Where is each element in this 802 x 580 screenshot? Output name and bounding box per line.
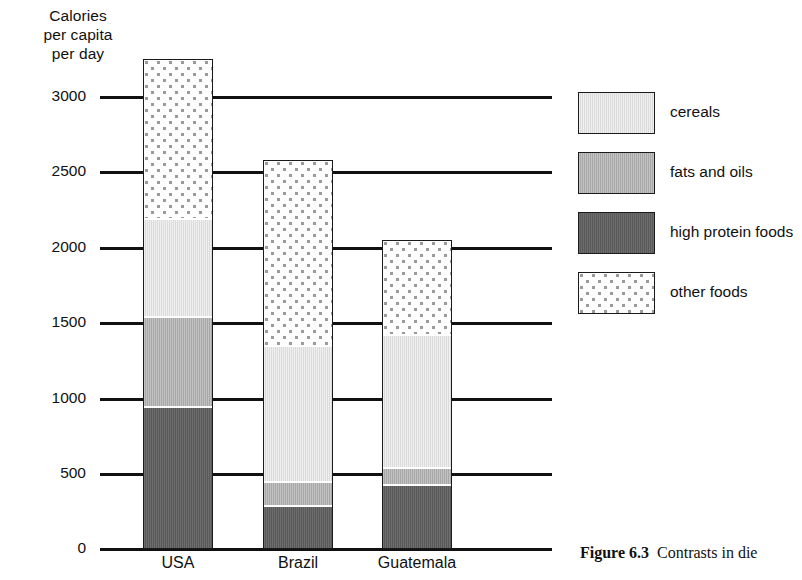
xtick-label-usa: USA xyxy=(108,554,248,572)
bar-brazil-segment-fats-and-oils xyxy=(264,481,332,505)
bar-brazil xyxy=(263,160,333,549)
bar-guatemala-segment-other-foods xyxy=(383,241,451,334)
legend-swatch-cereals xyxy=(578,92,655,134)
legend-item-other-foods: other foods xyxy=(578,272,802,332)
xtick-label-guatemala: Guatemala xyxy=(347,554,487,572)
bar-guatemala-segment-fats-and-oils xyxy=(383,467,451,484)
bar-usa xyxy=(143,59,213,549)
ytick-label-2500: 2500 xyxy=(14,163,86,179)
bar-brazil-segment-other-foods xyxy=(264,161,332,345)
chart-legend: cereals fats and oils high protein foods… xyxy=(578,92,802,332)
bar-brazil-segment-high-protein-foods xyxy=(264,505,332,549)
ytick-label-0: 0 xyxy=(14,540,86,556)
ytick-label-1500: 1500 xyxy=(14,314,86,330)
bar-usa-segment-other-foods xyxy=(144,60,212,218)
ytick-label-1000: 1000 xyxy=(14,390,86,406)
ytick-label-500: 500 xyxy=(14,465,86,481)
ytick-label-3000: 3000 xyxy=(14,88,86,104)
bar-usa-segment-fats-and-oils xyxy=(144,316,212,406)
figure-number: Figure 6.3 xyxy=(580,544,649,561)
legend-label-other-foods: other foods xyxy=(670,283,748,301)
figure-caption-body: Contrasts in die xyxy=(657,544,757,561)
bar-guatemala-segment-cereals xyxy=(383,334,451,467)
legend-swatch-fats-and-oils xyxy=(578,152,655,194)
legend-item-fats-and-oils: fats and oils xyxy=(578,152,802,212)
figure-caption-text xyxy=(649,544,657,561)
legend-item-high-protein-foods: high protein foods xyxy=(578,212,802,272)
bar-usa-segment-high-protein-foods xyxy=(144,406,212,549)
legend-label-fats-and-oils: fats and oils xyxy=(670,163,753,181)
y-axis-title: Calories per capita per day xyxy=(18,6,138,63)
bar-guatemala xyxy=(382,240,452,549)
legend-label-high-protein-foods: high protein foods xyxy=(670,223,793,241)
legend-swatch-high-protein-foods xyxy=(578,212,655,254)
legend-item-cereals: cereals xyxy=(578,92,802,152)
legend-swatch-other-foods xyxy=(578,272,655,314)
bar-usa-segment-cereals xyxy=(144,218,212,316)
bar-brazil-segment-cereals xyxy=(264,345,332,481)
figure-caption: Figure 6.3 Contrasts in die xyxy=(580,544,802,562)
bar-guatemala-segment-high-protein-foods xyxy=(383,484,451,549)
ytick-label-2000: 2000 xyxy=(14,239,86,255)
chart-figure: Calories per capita per day 3000 2500 20… xyxy=(0,0,570,580)
legend-label-cereals: cereals xyxy=(670,103,720,121)
